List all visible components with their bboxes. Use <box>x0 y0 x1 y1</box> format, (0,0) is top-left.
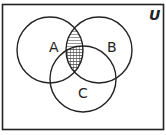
venn-diagram: A B C U <box>0 0 166 135</box>
set-c-label: C <box>78 85 88 101</box>
universe-rectangle <box>3 5 164 130</box>
set-b-label: B <box>107 39 117 55</box>
set-a-label: A <box>49 39 59 55</box>
universe-label: U <box>149 7 161 23</box>
